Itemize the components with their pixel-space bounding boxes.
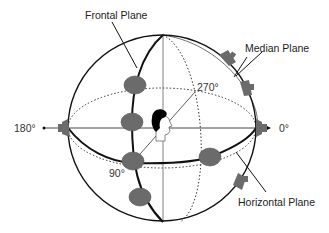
speaker-icon: [199, 148, 221, 166]
speaker-icon: [256, 119, 262, 137]
angle-0-label: 0°: [279, 122, 289, 134]
speaker-icon: [121, 113, 143, 131]
horizontal-plane-label: Horizontal Plane: [238, 196, 315, 208]
listener-head: [152, 109, 172, 141]
frontal-speakers: [121, 76, 151, 206]
angle-180-label: 180°: [14, 122, 36, 134]
speaker-icon: [124, 76, 146, 94]
median-plane-label: Median Plane: [245, 42, 309, 54]
speaker-icon: [122, 152, 144, 170]
angle-90-label: 90°: [109, 167, 125, 179]
frontal-plane-label: Frontal Plane: [85, 9, 148, 21]
angle-270-label: 270°: [197, 81, 219, 93]
median-plane-leader-ext: [236, 52, 262, 76]
sphere-plane-diagram: Frontal Plane Median Plane Horizontal Pl…: [0, 0, 329, 233]
speaker-icon: [129, 188, 151, 206]
frontal-plane-leader: [112, 22, 137, 68]
